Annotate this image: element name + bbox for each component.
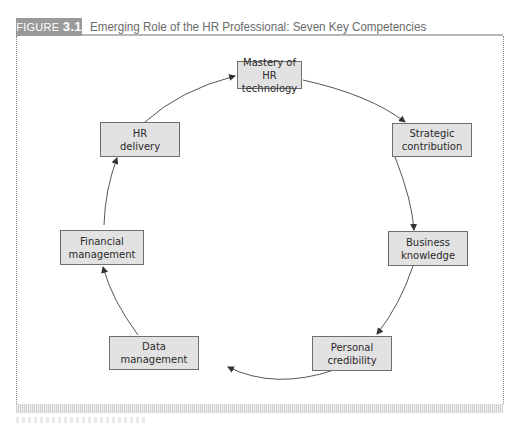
node-label-line1: Data <box>142 340 166 353</box>
node-label-line2: knowledge <box>401 249 455 262</box>
arrow-data-to-financial <box>103 267 138 335</box>
node-label-line1: Financial <box>80 235 124 248</box>
node-label-line2: delivery <box>120 140 160 153</box>
node-mastery-of-hr-technology: Mastery of HR technology <box>237 61 302 89</box>
node-label-line1: Strategic <box>409 127 454 140</box>
node-label-line1: Mastery of <box>243 56 296 69</box>
node-label-line1: Business <box>406 236 450 249</box>
arrow-financial-to-delivery <box>104 158 117 225</box>
node-financial-management: Financial management <box>60 230 144 265</box>
node-label-line2: management <box>69 248 136 261</box>
node-label-line2: HR technology <box>238 69 301 95</box>
node-personal-credibility: Personal credibility <box>312 336 392 371</box>
node-business-knowledge: Business knowledge <box>388 231 468 266</box>
node-hr-delivery: HR delivery <box>100 122 180 157</box>
node-label-line1: Personal <box>331 341 374 354</box>
arrow-business-to-personal <box>377 266 413 334</box>
node-strategic-contribution: Strategic contribution <box>392 123 472 157</box>
node-label-line2: credibility <box>327 354 376 367</box>
arrow-mastery-to-strategic <box>303 80 405 122</box>
node-label-line2: management <box>121 353 188 366</box>
node-label-line1: HR <box>133 127 147 140</box>
node-label-line2: contribution <box>402 140 463 153</box>
arrow-strategic-to-business <box>395 157 414 230</box>
arrow-delivery-to-mastery <box>145 76 235 122</box>
node-data-management: Data management <box>109 336 199 370</box>
